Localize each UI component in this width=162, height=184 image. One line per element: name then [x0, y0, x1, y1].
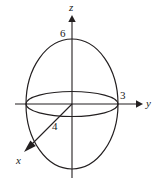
z-intercept-label: 6 — [60, 28, 66, 39]
z-axis-label: z — [69, 2, 73, 13]
ellipsoid-figure: z y x 6 3 4 — [0, 0, 162, 184]
y-axis-arrowhead — [136, 100, 143, 108]
figure-canvas — [0, 0, 162, 184]
z-axis-arrowhead — [68, 15, 75, 22]
y-intercept-label: 3 — [120, 90, 126, 101]
y-axis-label: y — [146, 98, 151, 109]
x-axis-label: x — [16, 155, 21, 166]
x-intercept-label: 4 — [52, 121, 58, 132]
x-axis-line — [29, 104, 72, 147]
